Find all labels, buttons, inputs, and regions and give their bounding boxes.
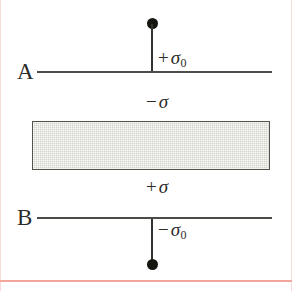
physics-diagram-figure: A +σ0 −σ +σ B −σ0 [0,0,292,291]
charge-symbol-plane-b: σ [171,219,180,240]
page-edge-rule-right [291,0,292,291]
plane-label-b: B [17,206,32,229]
charge-symbol-slab-bottom: σ [159,176,168,197]
charge-subscript-plane-b: 0 [180,228,187,242]
charge-operator-slab-top: − [146,91,159,112]
charge-label-plane-b: −σ0 [158,220,187,241]
charge-symbol-slab-top: σ [159,91,168,112]
page-edge-rule-left [0,0,1,291]
charge-operator-slab-bottom: + [146,176,159,197]
page-bottom-rule [0,280,292,282]
plane-line-a [37,71,272,73]
charge-label-plane-a: +σ0 [158,48,187,69]
charge-label-slab-top: −σ [146,92,168,111]
plane-label-a: A [17,60,34,83]
plane-line-b [37,217,272,219]
charge-label-slab-bottom: +σ [146,177,168,196]
conducting-slab [32,121,270,170]
bottom-charge-terminal-dot [147,259,158,270]
charge-operator-plane-a: + [158,47,171,68]
charge-symbol-plane-a: σ [171,47,180,68]
top-charge-stem [151,24,153,73]
charge-subscript-plane-a: 0 [180,56,187,70]
charge-operator-plane-b: − [158,219,171,240]
